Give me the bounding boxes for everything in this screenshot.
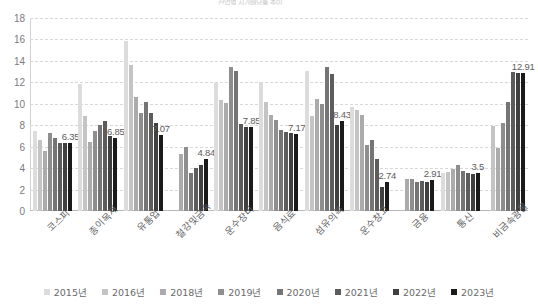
x-label-cell: 비금속광물 — [483, 213, 528, 273]
bar-group: 12.91 — [483, 18, 528, 211]
bar-group: 7.07 — [121, 18, 166, 211]
bar: 2.91 — [430, 180, 434, 211]
legend-item[interactable]: 2019년 — [218, 285, 261, 299]
bar-group: 6.85 — [75, 18, 120, 211]
bar — [53, 138, 57, 211]
x-label-cell: 금융 — [392, 213, 437, 273]
bar — [446, 172, 450, 211]
bar — [274, 120, 278, 211]
bar — [501, 123, 505, 211]
bar: 8.43 — [340, 121, 344, 211]
bar — [129, 65, 133, 211]
bar — [93, 131, 97, 211]
bar — [279, 130, 283, 211]
bar — [335, 125, 339, 211]
bar — [264, 102, 268, 211]
bar — [320, 104, 324, 211]
bar — [38, 140, 42, 211]
bar — [284, 132, 288, 211]
bar — [325, 67, 329, 211]
bar — [48, 133, 52, 211]
legend-swatch — [393, 289, 399, 295]
bar — [330, 74, 334, 211]
y-tick-label: 12 — [14, 77, 25, 88]
bar — [370, 140, 374, 211]
bar-groups: 6.356.857.074.847.857.178.432.742.913.51… — [30, 18, 528, 211]
bar — [305, 71, 309, 211]
x-tick-label: 금융 — [408, 209, 431, 232]
y-tick-label: 6 — [19, 141, 25, 152]
bar-group: 7.17 — [256, 18, 301, 211]
bar — [219, 100, 223, 212]
bar — [491, 126, 495, 211]
bar — [124, 41, 128, 211]
y-tick-label: 14 — [14, 55, 25, 66]
chart-title-sliver: 산업별 시가배당률 추이 — [218, 0, 328, 5]
bar — [189, 173, 193, 211]
bar — [350, 107, 354, 211]
x-label-cell: 철강및금속 — [166, 213, 211, 273]
legend-swatch — [277, 289, 283, 295]
bar — [154, 123, 158, 211]
bar — [234, 71, 238, 211]
bar — [451, 169, 455, 211]
x-label-cell: 섬유의복 — [302, 213, 347, 273]
y-tick-label: 10 — [14, 98, 25, 109]
bar — [405, 179, 409, 211]
x-label-cell: 음식료 — [256, 213, 301, 273]
bar — [516, 73, 520, 211]
bar — [139, 113, 143, 211]
legend-item[interactable]: 2015년 — [44, 285, 87, 299]
x-axis-labels: 코스피종이목재유통업철강및금속운수장비음식료섬유의복운수창고금융통신비금속광물 — [30, 213, 528, 273]
x-label-cell: 통신 — [437, 213, 482, 273]
legend-swatch — [218, 289, 224, 295]
y-tick-label: 4 — [19, 163, 25, 174]
legend-label: 2021년 — [345, 285, 378, 299]
chart-legend: 2015년2016년2018년2019년2020년2021년2022년2023년 — [0, 282, 538, 302]
x-label-cell: 운수창고 — [347, 213, 392, 273]
bar — [259, 82, 263, 211]
bar-group: 4.84 — [166, 18, 211, 211]
y-tick-label: 0 — [19, 206, 25, 217]
bar — [441, 173, 445, 211]
bar — [461, 171, 465, 211]
legend-item[interactable]: 2021년 — [335, 285, 378, 299]
legend-label: 2019년 — [228, 285, 261, 299]
bar — [466, 173, 470, 211]
bar — [506, 102, 510, 211]
x-label-cell: 운수장비 — [211, 213, 256, 273]
bar — [58, 143, 62, 211]
bar — [496, 148, 500, 211]
legend-swatch — [335, 289, 341, 295]
bar — [134, 97, 138, 211]
bar — [244, 127, 248, 211]
legend-swatch — [44, 289, 50, 295]
x-label-cell: 코스피 — [30, 213, 75, 273]
bar — [315, 99, 319, 211]
legend-item[interactable]: 2022년 — [393, 285, 436, 299]
legend-item[interactable]: 2018년 — [160, 285, 203, 299]
bar-group: 8.43 — [302, 18, 347, 211]
legend-label: 2016년 — [112, 285, 145, 299]
legend-item[interactable]: 2020년 — [277, 285, 320, 299]
x-tick-label: 통신 — [454, 209, 477, 232]
bar-group: 3.5 — [437, 18, 482, 211]
bar — [456, 165, 460, 211]
y-tick-label: 18 — [14, 13, 25, 24]
bar-group: 2.91 — [392, 18, 437, 211]
bar-group: 7.85 — [211, 18, 256, 211]
legend-item[interactable]: 2016년 — [102, 285, 145, 299]
y-tick-label: 8 — [19, 120, 25, 131]
bar — [108, 136, 112, 211]
bar — [98, 125, 102, 211]
legend-label: 2020년 — [287, 285, 320, 299]
y-tick-label: 2 — [19, 184, 25, 195]
bar: 7.07 — [159, 135, 163, 211]
bar — [229, 67, 233, 211]
bar-value-label: 12.91 — [512, 61, 535, 72]
bar: 3.5 — [476, 173, 480, 211]
bar — [355, 110, 359, 211]
bar — [78, 84, 82, 211]
bar — [511, 72, 515, 211]
legend-item[interactable]: 2023년 — [451, 285, 494, 299]
